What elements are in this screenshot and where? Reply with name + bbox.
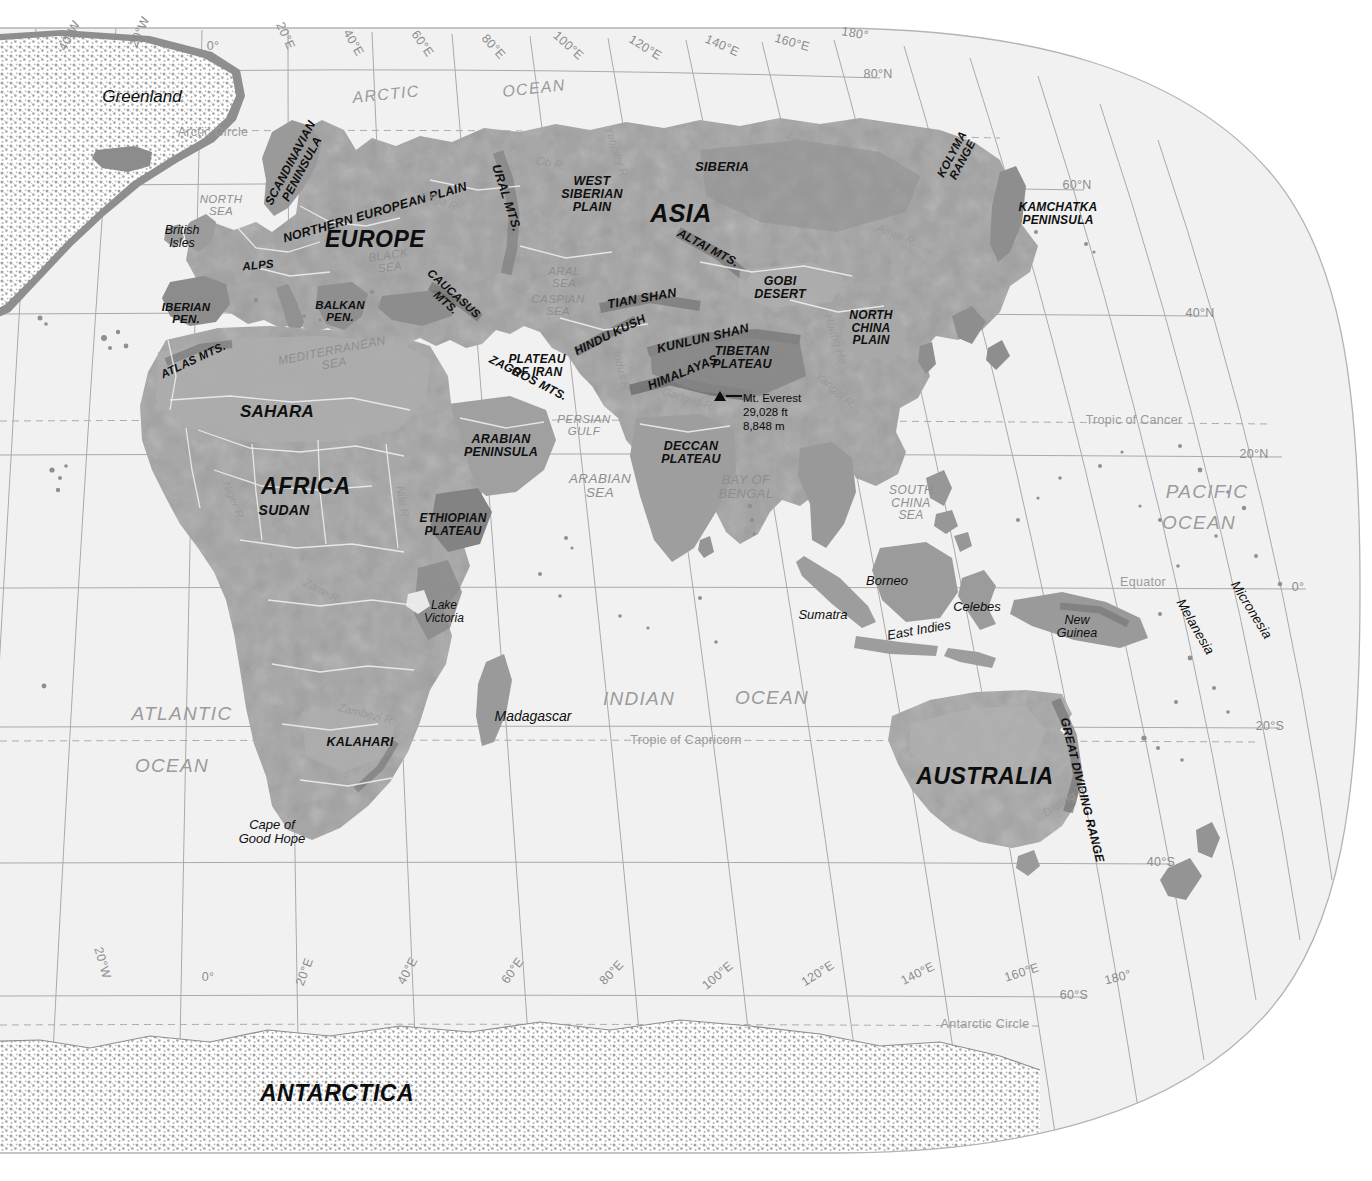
map-canvas <box>0 0 1372 1181</box>
mount-everest-leader-line <box>726 395 742 397</box>
mount-everest-peak-icon <box>714 391 726 401</box>
world-map: EUROPEASIAAFRICAAUSTRALIAANTARCTICA SCAN… <box>0 0 1372 1181</box>
